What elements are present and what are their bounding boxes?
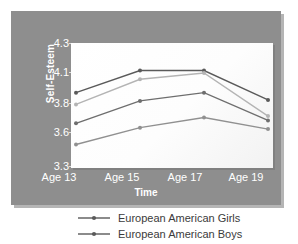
- chart-legend: European American Girls European America…: [78, 210, 288, 242]
- y-tick-label-4.3: 4.3: [35, 38, 69, 48]
- data-point: [74, 121, 78, 125]
- x-tick-label-age-17: Age 17: [158, 171, 212, 183]
- series-4: [74, 116, 270, 147]
- legend-line-marker-icon: [78, 229, 110, 239]
- data-point: [266, 127, 270, 131]
- legend-line-marker-icon: [78, 213, 110, 223]
- series-3: [74, 91, 270, 126]
- legend-item-girls: European American Girls: [78, 210, 288, 226]
- y-tick-label-3.6: 3.6: [35, 127, 69, 137]
- legend-label-girls: European American Girls: [118, 212, 240, 224]
- x-tick-label-age-13: Age 13: [32, 171, 86, 183]
- y-tick-label-3.3: 3.3: [35, 161, 69, 171]
- data-point: [74, 142, 78, 146]
- data-point: [266, 98, 270, 102]
- chart-screenshot: Self-Esteem 4.3 4.1 3.8 3.6 3.3 Age 13 A…: [0, 0, 298, 244]
- series-2: [74, 71, 270, 118]
- series-line: [76, 118, 268, 145]
- plot-area: [71, 43, 273, 168]
- data-point: [74, 91, 78, 95]
- series-line: [76, 73, 268, 116]
- legend-label-boys: European American Boys: [118, 228, 242, 240]
- data-point: [138, 99, 142, 103]
- data-point: [138, 126, 142, 130]
- y-tick-label-4.1: 4.1: [35, 67, 69, 77]
- data-point: [138, 77, 142, 81]
- x-tick-label-age-15: Age 15: [95, 171, 149, 183]
- y-tick-label-3.8: 3.8: [35, 98, 69, 108]
- figure-panel: Self-Esteem 4.3 4.1 3.8 3.6 3.3 Age 13 A…: [11, 11, 281, 205]
- data-point: [74, 102, 78, 106]
- data-point: [266, 118, 270, 122]
- data-point: [138, 69, 142, 73]
- series-line: [76, 71, 268, 100]
- legend-item-boys: European American Boys: [78, 226, 288, 242]
- data-point: [202, 91, 206, 95]
- data-point: [202, 116, 206, 120]
- data-point: [202, 71, 206, 75]
- x-tick-label-age-19: Age 19: [219, 171, 273, 183]
- data-point: [266, 114, 270, 118]
- data-lines-svg: [71, 43, 273, 168]
- x-axis-title: Time: [11, 187, 281, 198]
